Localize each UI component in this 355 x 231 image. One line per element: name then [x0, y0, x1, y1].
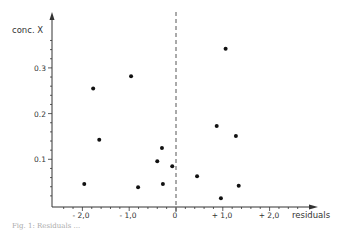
y-axis-arrow-icon: [50, 12, 55, 20]
y-ticks: [48, 40, 52, 195]
data-point: [97, 138, 101, 142]
x-tick-label: - 1,0: [119, 211, 136, 220]
x-tick-label: - 2,0: [72, 211, 89, 220]
x-axis-label: residuals: [292, 210, 331, 220]
y-tick-label: 0.2: [34, 110, 46, 119]
data-point: [129, 74, 133, 78]
data-point: [160, 146, 164, 150]
y-tick-label: 0.1: [34, 155, 46, 164]
x-tick-label: 0: [173, 211, 178, 220]
figure-caption: Fig. 1: Residuals ...: [12, 222, 80, 230]
y-axis-label: conc. X: [12, 25, 43, 35]
data-point: [82, 182, 86, 186]
data-point: [219, 196, 223, 200]
data-point: [136, 185, 140, 189]
x-tick-label: + 1,0: [212, 211, 233, 220]
data-points: [82, 47, 240, 200]
data-point: [234, 134, 238, 138]
scatter-chart: conc. X residuals 0.3 0.2 0.1 - 2,0 - 1,…: [0, 0, 355, 231]
data-point: [155, 159, 159, 163]
x-axis-arrow-icon: [309, 205, 318, 210]
data-point: [215, 124, 219, 128]
x-tick-label: + 2,0: [259, 211, 280, 220]
data-point: [170, 164, 174, 168]
y-tick-label: 0.3: [34, 64, 46, 73]
data-point: [91, 86, 95, 90]
data-point: [195, 174, 199, 178]
data-point: [224, 47, 228, 51]
data-point: [161, 182, 165, 186]
data-point: [237, 184, 241, 188]
